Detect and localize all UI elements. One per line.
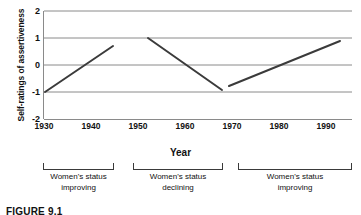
- x-tick-label: 1930: [24, 122, 64, 131]
- x-tick-label: 1980: [259, 122, 299, 131]
- annotation-label-line1: Women's status: [50, 172, 107, 181]
- annotation-group-1: Women's status improving: [43, 163, 114, 193]
- x-tick-label: 1940: [71, 122, 111, 131]
- annotation-groups: Women's status improving Women's status …: [0, 163, 361, 207]
- annotation-group-3: Women's status improving: [238, 163, 352, 193]
- annotation-group-2: Women's status declining: [133, 163, 223, 193]
- annotation-label-line1: Women's status: [150, 172, 207, 181]
- annotation-label: Women's status declining: [133, 172, 223, 193]
- annotation-bracket: [43, 163, 114, 170]
- data-line-segment-3: [229, 41, 340, 86]
- x-axis-tick-labels: 1930 1940 1950 1960 1970 1980 1990: [0, 122, 361, 136]
- annotation-label-line2: improving: [43, 183, 114, 194]
- annotation-label: Women's status improving: [238, 172, 352, 193]
- annotation-bracket: [238, 163, 352, 170]
- x-tick-label: 1950: [118, 122, 158, 131]
- annotation-bracket: [133, 163, 223, 170]
- figure-caption: FIGURE 9.1: [6, 206, 62, 215]
- data-line-segment-2: [148, 38, 222, 90]
- gridlines: [44, 11, 352, 92]
- data-line-segment-1: [45, 46, 113, 92]
- annotation-label-line2: declining: [133, 183, 223, 194]
- annotation-label-line1: Women's status: [267, 172, 324, 181]
- x-axis-title: Year: [0, 147, 361, 158]
- plot-area: [0, 0, 361, 140]
- annotation-label-line2: improving: [238, 183, 352, 194]
- figure-container: Self-ratings of assertiveness 2 1 0 -1 -…: [0, 0, 361, 215]
- annotation-label: Women's status improving: [43, 172, 114, 193]
- x-tick-label: 1970: [212, 122, 252, 131]
- x-tick-label: 1990: [306, 122, 346, 131]
- x-tick-label: 1960: [165, 122, 205, 131]
